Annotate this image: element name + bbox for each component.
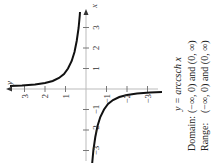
y-tick-label: 1 [61,94,71,99]
y-tick-label: −1 [102,94,112,104]
range-value: (−∞, 0) and (0, ∞) [199,40,210,113]
x-axis-arrow-icon [84,9,89,15]
x-axis-label: x [89,4,99,9]
x-tick-label: −1 [91,105,101,115]
equation-label: y = arccsch x [172,57,183,111]
y-axis-arrow-icon [6,87,12,92]
domain-value: (−∞, 0) and (0, ∞) [186,40,197,113]
x-tick-label: 2 [91,46,101,51]
y-tick-label: 3 [20,94,30,99]
y-tick-label: 2 [40,94,50,99]
y-tick-label: −3 [143,94,153,104]
x-tick-label: −3 [91,145,101,155]
plot-area: −3 −2 −1 1 2 3 −3 −2 −1 1 2 3 x y [0,0,170,165]
x-tick-label: 1 [91,66,101,71]
domain-label: Domain: [186,113,197,151]
range-row: Range:(−∞, 0) and (0, ∞) [199,40,210,151]
x-tick-label: −2 [91,125,101,135]
x-tick-label: 3 [91,25,101,30]
chart-figure: −3 −2 −1 1 2 3 −3 −2 −1 1 2 3 x y y = ar… [0,0,213,165]
y-tick-label: −2 [122,94,132,104]
range-label: Range: [199,113,210,151]
curve-positive [10,12,80,86]
domain-row: Domain:(−∞, 0) and (0, ∞) [186,40,197,151]
